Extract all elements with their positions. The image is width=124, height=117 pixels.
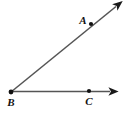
geometry-canvas: A B C — [0, 0, 124, 117]
point-b-dot — [9, 90, 14, 95]
geometry-figure: A B C — [0, 0, 124, 117]
figure-background — [0, 0, 124, 117]
point-b-label: B — [6, 96, 14, 108]
point-c-label: C — [85, 95, 93, 107]
point-c-dot — [87, 89, 91, 93]
point-a-label: A — [78, 14, 86, 26]
point-a-dot — [89, 22, 93, 26]
